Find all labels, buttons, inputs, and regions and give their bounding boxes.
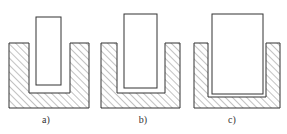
figure-label-a: a)	[42, 114, 50, 125]
insert-block	[36, 17, 61, 85]
figure-a	[9, 17, 89, 108]
figure-label-c: c)	[228, 114, 236, 125]
insert-block	[124, 14, 157, 88]
insert-block	[212, 14, 263, 94]
figure-c	[194, 14, 280, 108]
figure-label-b: b)	[139, 114, 147, 125]
figure-b	[101, 14, 180, 108]
